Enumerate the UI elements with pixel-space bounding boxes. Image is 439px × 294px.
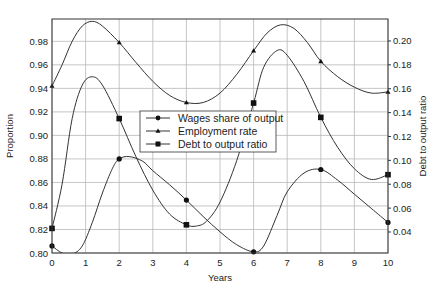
y2-tick-label: 0.12 bbox=[393, 131, 412, 142]
legend: Wages share of output Employment rate De… bbox=[140, 111, 283, 152]
square-marker-icon bbox=[116, 116, 122, 122]
x-tick-label: 9 bbox=[352, 257, 357, 268]
y-tick-label: 0.90 bbox=[30, 130, 49, 141]
y-tick-label: 0.88 bbox=[30, 153, 49, 164]
x-tick-label: 3 bbox=[150, 257, 155, 268]
y2-tick-label: 0.16 bbox=[393, 83, 412, 94]
circle-marker-icon bbox=[251, 249, 256, 254]
y2-tick-label: 0.20 bbox=[393, 35, 412, 46]
y-tick-label: 0.84 bbox=[30, 200, 49, 211]
circle-marker-icon bbox=[184, 197, 189, 202]
y-tick-label: 0.96 bbox=[30, 59, 49, 70]
y-tick-label: 0.94 bbox=[30, 83, 49, 94]
x-tick-label: 10 bbox=[383, 257, 394, 268]
y2-tick-label: 0.10 bbox=[393, 155, 412, 166]
legend-label-debt: Debt to output ratio bbox=[178, 138, 267, 150]
y2-tick-label: 0.06 bbox=[393, 203, 412, 214]
y2-axis-ticks: 0.040.060.080.100.120.140.160.180.20 bbox=[388, 35, 412, 237]
y-axis-ticks: 0.800.820.840.860.880.900.920.940.960.98 bbox=[30, 36, 49, 259]
y2-tick-label: 0.18 bbox=[393, 59, 412, 70]
circle-marker-icon bbox=[318, 167, 323, 172]
x-tick-label: 7 bbox=[285, 257, 290, 268]
y-axis-label: Proportion bbox=[4, 114, 15, 158]
square-marker-icon bbox=[251, 100, 257, 106]
circle-marker-icon bbox=[156, 116, 161, 121]
y-tick-label: 0.92 bbox=[30, 106, 49, 117]
legend-label-wages: Wages share of output bbox=[178, 112, 283, 124]
line-chart: 012345678910 0.800.820.840.860.880.900.9… bbox=[0, 0, 439, 294]
y2-tick-label: 0.14 bbox=[393, 107, 412, 118]
y2-tick-label: 0.08 bbox=[393, 179, 412, 190]
x-axis-label: Years bbox=[208, 272, 232, 283]
x-tick-label: 0 bbox=[49, 257, 54, 268]
x-tick-label: 2 bbox=[117, 257, 122, 268]
x-axis-ticks: 012345678910 bbox=[49, 257, 393, 268]
x-tick-label: 8 bbox=[318, 257, 323, 268]
x-tick-label: 6 bbox=[251, 257, 256, 268]
square-marker-icon bbox=[318, 115, 324, 121]
y-tick-label: 0.98 bbox=[30, 36, 49, 47]
y-tick-label: 0.82 bbox=[30, 224, 49, 235]
x-tick-label: 4 bbox=[184, 257, 189, 268]
square-marker-icon bbox=[156, 142, 161, 147]
y-tick-label: 0.86 bbox=[30, 177, 49, 188]
x-tick-label: 5 bbox=[217, 257, 222, 268]
y2-tick-label: 0.04 bbox=[393, 226, 412, 237]
legend-label-employment: Employment rate bbox=[178, 125, 258, 137]
circle-marker-icon bbox=[117, 156, 122, 161]
x-tick-label: 1 bbox=[83, 257, 88, 268]
y2-axis-label: Debt to output ratio bbox=[417, 96, 428, 177]
square-marker-icon bbox=[184, 222, 190, 228]
y-tick-label: 0.80 bbox=[30, 248, 49, 259]
